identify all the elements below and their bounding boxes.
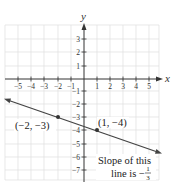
- slope-fraction-numerator: 1: [146, 165, 150, 173]
- y-tick-label: −7: [72, 166, 80, 175]
- y-axis-arrow-icon: [82, 23, 87, 30]
- x-tick-label: −3: [40, 82, 48, 91]
- y-tick-label: 2: [76, 48, 80, 57]
- x-axis-label: x: [164, 72, 170, 84]
- slope-annotation: Slope of this line is − 1 3: [96, 154, 156, 182]
- line-right-arrow-icon: [155, 149, 162, 154]
- y-tick-label: −2: [72, 100, 80, 109]
- slope-note-line1: Slope of this: [98, 155, 151, 166]
- x-tick-label: 3: [121, 82, 125, 91]
- y-tick-label: −3: [72, 113, 80, 122]
- y-tick-label: −5: [72, 140, 80, 149]
- x-tick-labels: −5 −4 −3 −2 −1 1 2 3 4 5: [14, 82, 151, 91]
- point-neg2-neg3: [56, 115, 60, 119]
- slope-fraction-denominator: 3: [146, 174, 150, 182]
- x-tick-label: 1: [95, 82, 99, 91]
- x-tick-label: 4: [134, 82, 138, 91]
- point-1-neg4: [95, 128, 99, 132]
- x-axis-arrow-icon: [156, 77, 163, 82]
- y-tick-label: −1: [72, 87, 80, 96]
- x-tick-label: 5: [147, 82, 151, 91]
- slope-note-line2: line is −: [111, 168, 145, 179]
- x-tick-label: −2: [54, 82, 62, 91]
- y-axis: y 3 2 1 −1 −2 −3 −4 −5 −6 −7: [72, 10, 86, 182]
- y-tick-label: −6: [72, 153, 80, 162]
- y-tick-label: 3: [76, 35, 80, 44]
- point-label-1-neg4: (1, −4): [98, 117, 127, 129]
- y-tick-label: 1: [76, 62, 80, 71]
- coordinate-plane: x −5 −4 −3 −2 −1 1 2 3 4 5: [0, 0, 177, 190]
- y-tick-label: −4: [72, 126, 80, 135]
- x-tick-label: 2: [108, 82, 112, 91]
- x-axis: x −5 −4 −3 −2 −1 1 2 3 4 5: [5, 72, 170, 91]
- y-axis-label: y: [80, 10, 86, 22]
- point-label-neg2-neg3: (−2, −3): [15, 120, 50, 132]
- x-tick-label: −4: [27, 82, 35, 91]
- x-tick-label: −5: [14, 82, 22, 91]
- y-tick-labels: 3 2 1 −1 −2 −3 −4 −5 −6 −7: [72, 35, 80, 175]
